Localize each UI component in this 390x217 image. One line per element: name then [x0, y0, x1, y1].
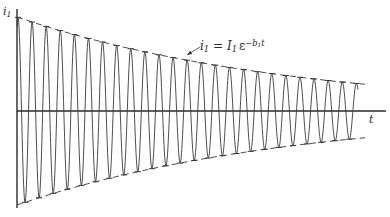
equation-exponent-time: t: [261, 38, 264, 48]
equation-coefficient-subscript: 1: [232, 44, 237, 54]
arrowhead-icon: [187, 51, 192, 55]
y-axis-subscript: 1: [7, 10, 12, 19]
equation-exponent-rate: −b: [245, 38, 257, 48]
equation-exponent: −b1t: [245, 38, 265, 48]
upper-envelope-curve: [17, 17, 365, 84]
damped-oscillation-figure: [0, 0, 390, 217]
envelope-tick-marks: [15, 17, 359, 202]
equation-equals: =: [209, 39, 227, 53]
envelope-equation: i1 = I1ε−b1t: [200, 39, 265, 54]
damped-current-waveform: [17, 17, 358, 202]
t-axis-label: t: [369, 114, 373, 125]
y-axis-label: i1: [3, 6, 11, 19]
